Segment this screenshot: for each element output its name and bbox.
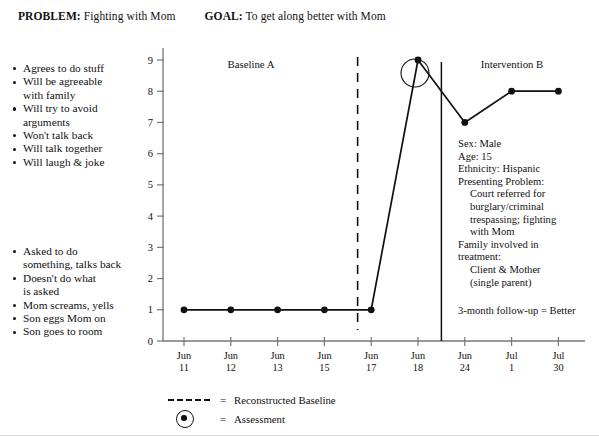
y-axis: 0123456789: [148, 48, 164, 347]
case-info-line: trespassing; fighting: [458, 214, 590, 227]
x-tick-label-day: 12: [226, 362, 236, 373]
case-info-block: Sex: MaleAge: 15Ethnicity: HispanicPrese…: [458, 138, 590, 289]
case-info-line: with Mom: [458, 226, 590, 239]
data-point[interactable]: [368, 306, 375, 313]
x-tick-label-month: Jun: [458, 350, 472, 361]
x-tick-label-month: Jun: [177, 350, 191, 361]
legend-equals-2: =: [212, 413, 234, 425]
legend-row-assessment: = Assessment: [168, 409, 336, 428]
x-tick-label-month: Jun: [270, 350, 284, 361]
data-point[interactable]: [461, 119, 468, 126]
data-point[interactable]: [274, 306, 281, 313]
y-tick-label: 0: [148, 336, 153, 347]
case-info-line: treatment:: [458, 251, 590, 264]
x-tick-label-day: 11: [179, 362, 189, 373]
x-tick-label-day: 17: [366, 362, 376, 373]
legend-row-reconstructed-baseline: = Reconstructed Baseline: [168, 390, 336, 409]
case-info-line: burglary/criminal: [458, 201, 590, 214]
x-tick-label-month: Jul: [506, 350, 518, 361]
data-point[interactable]: [321, 306, 328, 313]
case-info-line: Family involved in: [458, 239, 590, 252]
phase-change-lines: [358, 57, 442, 341]
phase-label: Baseline A: [227, 58, 274, 70]
data-point[interactable]: [181, 306, 188, 313]
phase-labels: Baseline AIntervention B: [227, 58, 543, 70]
case-info-line: Presenting Problem:: [458, 176, 590, 189]
chart-legend: = Reconstructed Baseline = Assessment: [168, 390, 336, 428]
x-axis: Jun11Jun12Jun13Jun15Jun17Jun18Jun24Jul1J…: [163, 337, 585, 373]
case-info-line: Court referred for: [458, 188, 590, 201]
y-tick-label: 8: [148, 86, 153, 97]
x-tick-label-day: 24: [460, 362, 470, 373]
x-tick-label-day: 1: [509, 362, 514, 373]
y-tick-label: 5: [148, 179, 153, 190]
y-tick-label: 3: [148, 242, 153, 253]
case-info-line: Ethnicity: Hispanic: [458, 163, 590, 176]
phase-label: Intervention B: [481, 58, 544, 70]
x-tick-label-day: 30: [553, 362, 563, 373]
y-tick-label: 1: [148, 304, 153, 315]
data-point[interactable]: [227, 306, 234, 313]
y-tick-label: 9: [148, 55, 153, 66]
x-tick-label-month: Jun: [411, 350, 425, 361]
case-info-line: Sex: Male: [458, 138, 590, 151]
circled-dot-icon: [168, 409, 212, 428]
x-tick-label-month: Jun: [224, 350, 238, 361]
case-info-line: Client & Mother: [458, 264, 590, 277]
data-point[interactable]: [555, 88, 562, 95]
x-tick-label-month: Jun: [317, 350, 331, 361]
x-tick-label-day: 13: [272, 362, 282, 373]
case-info-line: Age: 15: [458, 151, 590, 164]
x-tick-label-day: 18: [413, 362, 423, 373]
dashed-line-icon: [168, 390, 212, 409]
x-tick-label-day: 15: [319, 362, 329, 373]
y-tick-label: 2: [148, 273, 153, 284]
legend-equals-1: =: [212, 394, 234, 406]
legend-label-assessment: Assessment: [234, 413, 285, 425]
x-tick-label-month: Jul: [552, 350, 564, 361]
y-tick-label: 4: [148, 211, 154, 222]
y-tick-label: 6: [148, 148, 153, 159]
y-tick-label: 7: [148, 117, 153, 128]
case-info-line: (single parent): [458, 277, 590, 290]
data-point[interactable]: [508, 88, 515, 95]
followup-note: 3-month follow-up = Better: [458, 305, 575, 316]
worksheet-root: PROBLEM: Fighting with Mom GOAL: To get …: [0, 0, 599, 436]
x-tick-label-month: Jun: [364, 350, 378, 361]
legend-label-reconstructed-baseline: Reconstructed Baseline: [234, 394, 336, 406]
